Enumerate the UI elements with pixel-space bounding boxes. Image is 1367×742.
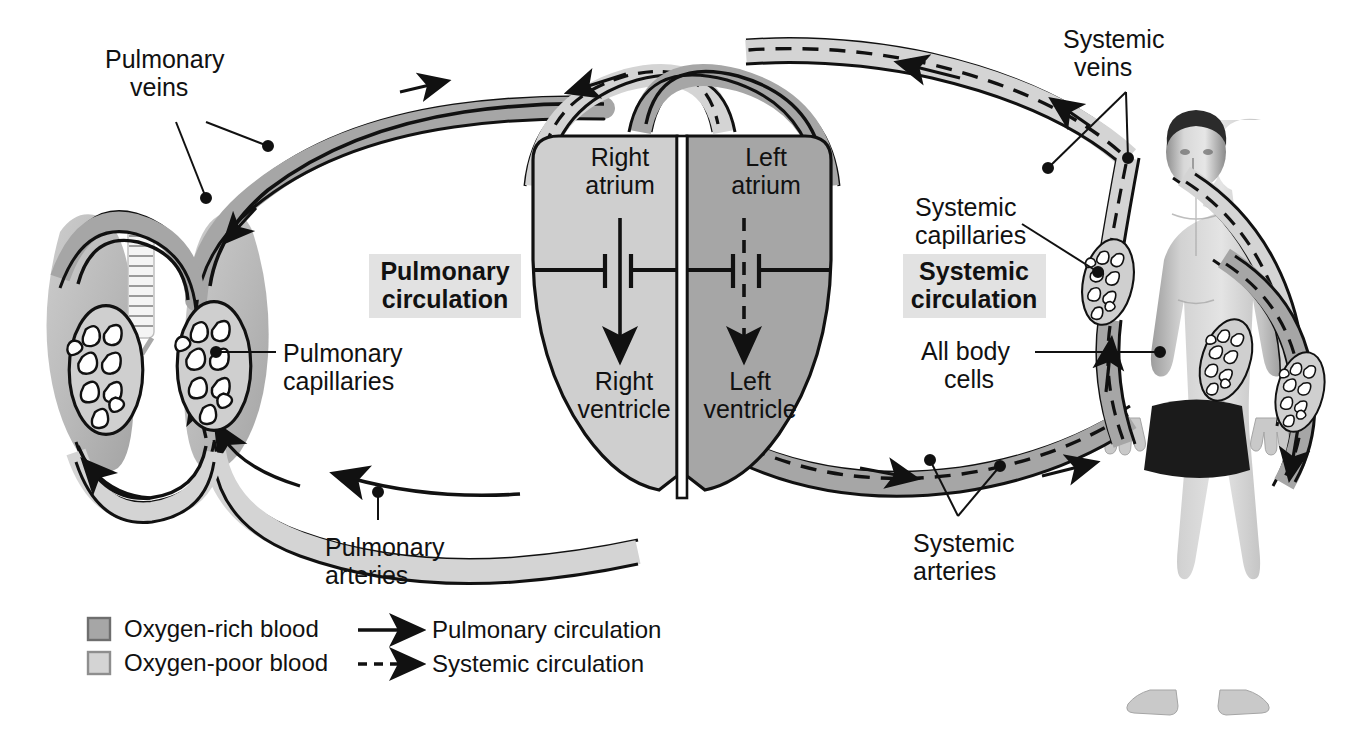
right-ventricle-label-line1: Right bbox=[595, 367, 653, 395]
legend-swatch-oxygen-rich bbox=[88, 618, 110, 640]
right-atrium-label-line1: Right bbox=[591, 143, 649, 171]
right-ventricle-label-line2: ventricle bbox=[577, 395, 670, 423]
interventricular-septum bbox=[677, 136, 687, 498]
legend-swatch-oxygen-poor bbox=[88, 652, 110, 674]
left-ventricle-label-line1: Left bbox=[729, 367, 771, 395]
pulmonary-veins-label-line1: Pulmonary bbox=[105, 45, 225, 73]
pulmonary-arteries-label-line2: arteries bbox=[325, 561, 408, 589]
systemic-veins-label-line2: veins bbox=[1074, 53, 1132, 81]
legend-label-pulmonary-circulation: Pulmonary circulation bbox=[432, 616, 661, 643]
pulmonary-capillary-bed-right bbox=[175, 302, 250, 431]
systemic-veins-label-line1: Systemic bbox=[1063, 25, 1164, 53]
right-atrium-label-line2: atrium bbox=[585, 171, 654, 199]
all-body-cells-label-line1: All body bbox=[921, 337, 1010, 365]
systemic-arteries-label-line1: Systemic bbox=[913, 529, 1014, 557]
systemic-capillaries-label-line2: capillaries bbox=[915, 221, 1026, 249]
legend-label-oxygen-rich: Oxygen-rich blood bbox=[124, 615, 319, 642]
pulmonary-circulation-title: Pulmonary circulation bbox=[369, 254, 521, 318]
all-body-cells-label-line2: cells bbox=[944, 365, 994, 393]
pulmonary-capillaries-label-line1: Pulmonary bbox=[283, 339, 403, 367]
pulmonary-veins-label-line2: veins bbox=[130, 73, 188, 101]
legend-label-systemic-circulation: Systemic circulation bbox=[432, 650, 644, 677]
systemic-circulation-title: Systemic circulation bbox=[903, 254, 1046, 318]
systemic-title-line2: circulation bbox=[911, 285, 1037, 313]
left-atrium-label-line2: atrium bbox=[731, 171, 800, 199]
systemic-arteries-label-line2: arteries bbox=[913, 557, 996, 585]
left-atrium-label-line1: Left bbox=[745, 143, 787, 171]
pulmonary-capillary-bed-left bbox=[67, 306, 142, 435]
systemic-capillaries-label-line1: Systemic bbox=[915, 193, 1016, 221]
pulmonary-title-line2: circulation bbox=[382, 285, 508, 313]
left-ventricle-label-line2: ventricle bbox=[703, 395, 796, 423]
legend-label-oxygen-poor: Oxygen-poor blood bbox=[124, 649, 328, 676]
circulation-diagram: Right atrium Left atrium Right ventricle… bbox=[0, 0, 1367, 742]
systemic-title-line1: Systemic bbox=[919, 257, 1029, 285]
pulmonary-title-line1: Pulmonary bbox=[380, 257, 509, 285]
pulmonary-arteries-label-line1: Pulmonary bbox=[325, 533, 445, 561]
pulmonary-capillaries-label-line2: capillaries bbox=[283, 367, 394, 395]
